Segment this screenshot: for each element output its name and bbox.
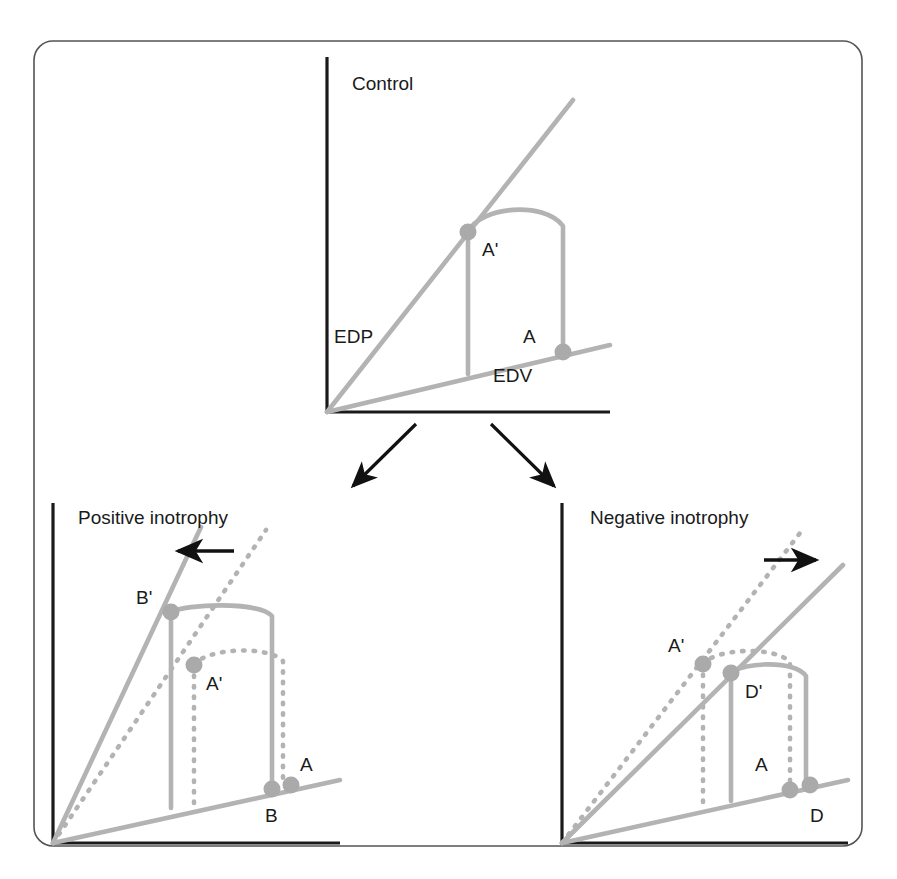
positive-label-b: B <box>265 805 278 826</box>
control-label-a: A <box>523 326 536 347</box>
positive-marker-a-prime <box>186 657 203 674</box>
negative-label-a: A <box>755 754 768 775</box>
pv-loop-diagram: Control EDP EDV A' A <box>0 0 897 879</box>
figure-container: Control EDP EDV A' A <box>0 0 897 879</box>
control-marker-a-prime <box>460 224 477 241</box>
positive-panel-title: Positive inotrophy <box>78 507 228 528</box>
negative-label-a-prime: A' <box>668 635 684 656</box>
control-label-a-prime: A' <box>482 239 498 260</box>
negative-label-d-prime: D' <box>745 681 762 702</box>
positive-marker-b <box>264 781 281 798</box>
control-edp-label: EDP <box>334 326 373 347</box>
control-marker-a <box>555 344 572 361</box>
negative-marker-d <box>802 777 819 794</box>
control-edv-label: EDV <box>493 365 532 386</box>
positive-label-a: A <box>300 754 313 775</box>
negative-marker-a-prime <box>695 656 712 673</box>
negative-marker-d-prime <box>723 665 740 682</box>
negative-panel-title: Negative inotrophy <box>590 507 749 528</box>
positive-label-b-prime: B' <box>136 587 152 608</box>
figure-border <box>34 41 862 846</box>
positive-marker-a <box>283 777 300 794</box>
negative-label-d: D <box>810 805 824 826</box>
control-panel-title: Control <box>352 73 413 94</box>
negative-marker-a <box>782 782 799 799</box>
positive-label-a-prime: A' <box>206 673 222 694</box>
positive-marker-b-prime <box>163 604 180 621</box>
